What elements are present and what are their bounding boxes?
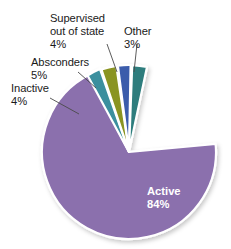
label-supervised-pct: 4% — [50, 38, 66, 50]
label-inactive-name: Inactive — [11, 82, 49, 94]
label-active-pct: 84% — [147, 198, 169, 210]
label-other-pct: 3% — [124, 38, 140, 50]
label-absconders-name: Absconders — [31, 56, 90, 68]
label-inactive-pct: 4% — [11, 95, 27, 107]
label-supervised-line2: out of state — [50, 25, 104, 37]
pie-chart-figure: Supervised out of state 4% Other 3% Absc… — [0, 0, 231, 249]
pie-chart-canvas: Supervised out of state 4% Other 3% Absc… — [0, 0, 231, 249]
label-absconders-pct: 5% — [31, 69, 47, 81]
label-supervised-line1: Supervised — [50, 12, 105, 24]
label-active-name: Active — [147, 185, 181, 197]
label-other-name: Other — [124, 25, 152, 37]
